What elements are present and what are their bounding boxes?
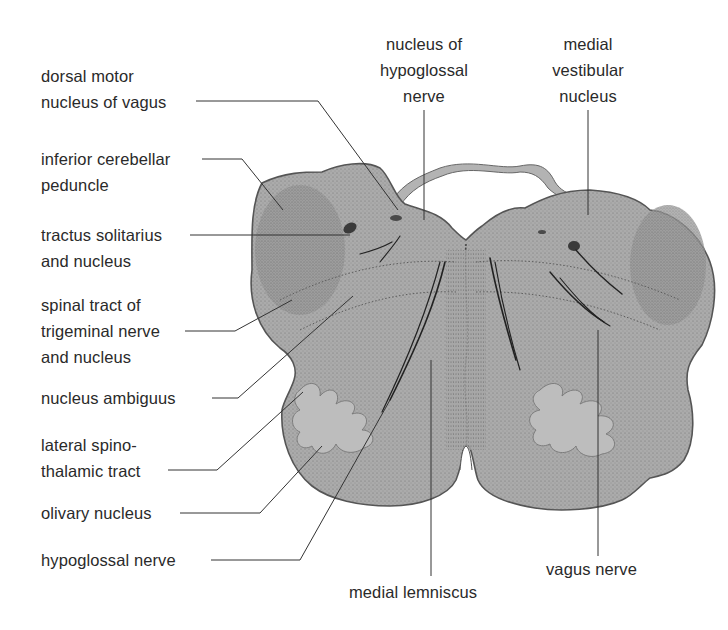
- right-solitary-tract-spot: [568, 241, 580, 251]
- label-line: nucleus: [538, 83, 638, 109]
- label-line: lateral spino-: [41, 432, 141, 458]
- label-nucleus-ambiguus: nucleus ambiguus: [41, 385, 176, 411]
- left-peduncle-zone: [255, 185, 345, 315]
- label-line: nerve: [364, 83, 484, 109]
- label-line: nucleus of vagus: [41, 89, 166, 115]
- label-line: thalamic tract: [41, 458, 141, 484]
- label-line: medial: [538, 31, 638, 57]
- label-hypoglossal-nerve: hypoglossal nerve: [41, 547, 176, 573]
- label-line: dorsal motor: [41, 63, 166, 89]
- label-line: tractus solitarius: [41, 222, 162, 248]
- label-line: inferior cerebellar: [41, 146, 170, 172]
- right-peduncle-zone: [630, 205, 706, 325]
- label-spinal-tract-of-trigeminal-nerve: spinal tract of trigeminal nerve and nuc…: [41, 292, 160, 370]
- label-line: spinal tract of: [41, 292, 160, 318]
- label-olivary-nucleus: olivary nucleus: [41, 500, 152, 526]
- label-line: hypoglossal nerve: [41, 547, 176, 573]
- label-line: olivary nucleus: [41, 500, 152, 526]
- label-line: vagus nerve: [546, 556, 637, 582]
- label-nucleus-of-hypoglossal-nerve: nucleus of hypoglossal nerve: [364, 31, 484, 109]
- label-medial-lemniscus: medial lemniscus: [349, 579, 477, 605]
- label-line: vestibular: [538, 57, 638, 83]
- label-line: hypoglossal: [364, 57, 484, 83]
- label-vagus-nerve: vagus nerve: [546, 556, 637, 582]
- label-line: nucleus of: [364, 31, 484, 57]
- left-dorsal-vagal-spot: [390, 215, 402, 221]
- label-dorsal-motor-nucleus-of-vagus: dorsal motor nucleus of vagus: [41, 63, 166, 115]
- label-line: and nucleus: [41, 248, 162, 274]
- label-line: peduncle: [41, 172, 170, 198]
- right-dorsal-vagal-spot: [538, 230, 546, 234]
- label-lateral-spinothalamic-tract: lateral spino- thalamic tract: [41, 432, 141, 484]
- label-inferior-cerebellar-peduncle: inferior cerebellar peduncle: [41, 146, 170, 198]
- medulla-diagram: dorsal motor nucleus of vagus inferior c…: [0, 0, 728, 630]
- label-line: medial lemniscus: [349, 579, 477, 605]
- label-medial-vestibular-nucleus: medial vestibular nucleus: [538, 31, 638, 109]
- label-tractus-solitarius-and-nucleus: tractus solitarius and nucleus: [41, 222, 162, 274]
- label-line: nucleus ambiguus: [41, 385, 176, 411]
- label-line: and nucleus: [41, 344, 160, 370]
- label-line: trigeminal nerve: [41, 318, 160, 344]
